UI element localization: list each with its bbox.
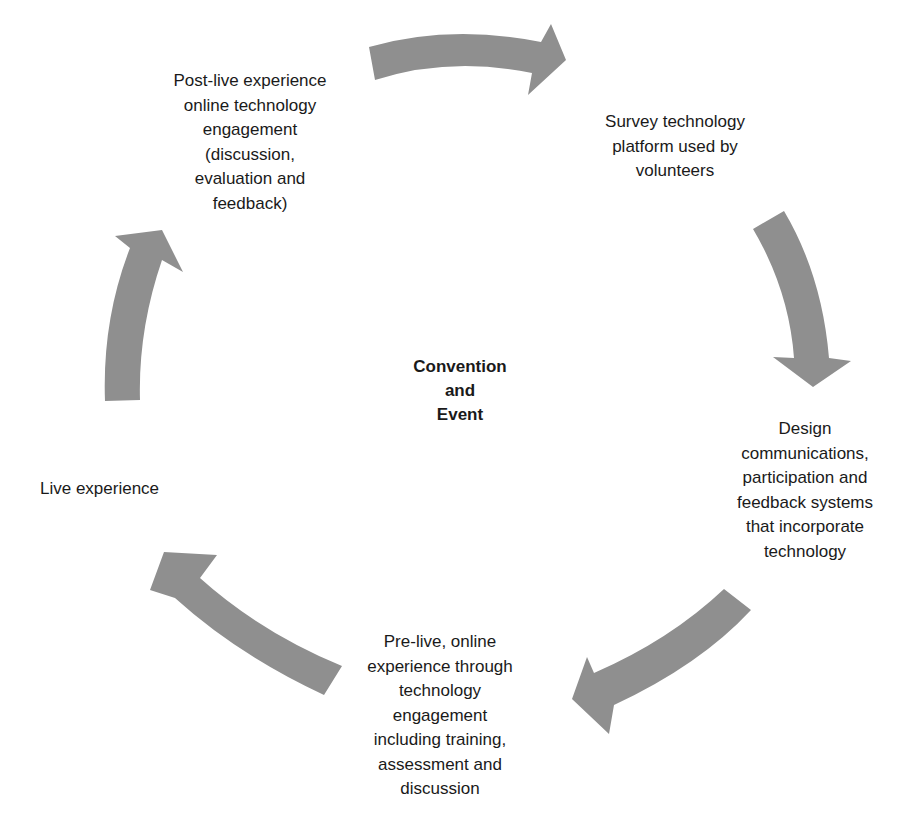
- arrow-pre-live-to-live: [150, 552, 342, 695]
- center-label: Convention and Event: [380, 355, 540, 427]
- node-pre-live: Pre-live, online experience through tech…: [345, 630, 535, 802]
- arrow-post-live-to-survey: [369, 24, 566, 95]
- node-survey: Survey technology platform used by volun…: [560, 110, 790, 184]
- arrow-survey-to-design: [753, 211, 851, 387]
- arrow-design-to-pre-live: [572, 589, 751, 734]
- node-post-live: Post-live experience online technology e…: [120, 69, 380, 216]
- arrow-live-to-post-live: [105, 230, 183, 401]
- node-design: Design communications, participation and…: [700, 417, 907, 564]
- node-live: Live experience: [40, 477, 210, 502]
